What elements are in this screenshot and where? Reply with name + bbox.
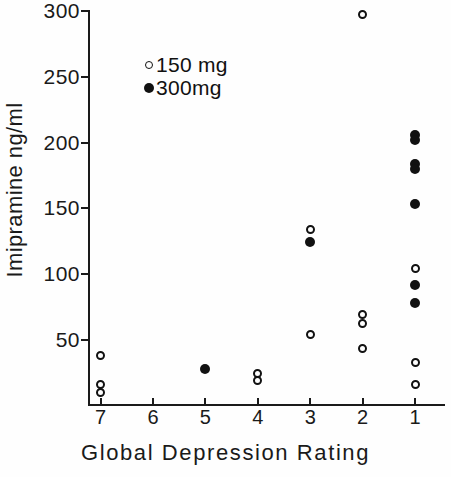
legend-entry: 150 mg bbox=[142, 53, 228, 76]
y-tick-label-150: 150 bbox=[43, 197, 80, 218]
data-point bbox=[200, 364, 210, 374]
data-point bbox=[253, 376, 262, 385]
data-point bbox=[411, 380, 420, 389]
x-axis-title: Global Depression Rating bbox=[0, 440, 451, 466]
x-tick-6 bbox=[152, 398, 154, 405]
open-circle-icon bbox=[142, 58, 156, 72]
data-point bbox=[410, 298, 420, 308]
data-point bbox=[96, 351, 105, 360]
y-tick-50 bbox=[81, 339, 89, 341]
x-tick-3 bbox=[309, 398, 311, 405]
data-point bbox=[305, 237, 315, 247]
data-point bbox=[410, 135, 420, 145]
x-tick-5 bbox=[204, 398, 206, 405]
y-tick-150 bbox=[81, 207, 89, 209]
legend-label: 300mg bbox=[156, 77, 222, 98]
legend: 150 mg300mg bbox=[142, 53, 228, 99]
x-axis-line bbox=[88, 404, 445, 406]
x-tick-4 bbox=[257, 398, 259, 405]
y-tick-300 bbox=[81, 10, 89, 12]
data-point bbox=[306, 225, 315, 234]
y-tick-200 bbox=[81, 142, 89, 144]
y-tick-label-100: 100 bbox=[43, 263, 80, 284]
data-point bbox=[411, 264, 420, 273]
data-point bbox=[411, 358, 420, 367]
data-point bbox=[358, 344, 367, 353]
data-point bbox=[358, 310, 367, 319]
y-axis-title: Imipramine ng/ml bbox=[2, 25, 30, 355]
filled-circle-icon bbox=[142, 81, 156, 95]
data-point bbox=[410, 199, 420, 209]
legend-entry: 300mg bbox=[142, 76, 228, 99]
x-tick-label-3: 3 bbox=[298, 407, 322, 427]
x-tick-1 bbox=[414, 398, 416, 405]
y-tick-100 bbox=[81, 273, 89, 275]
legend-label: 150 mg bbox=[156, 54, 228, 75]
data-point bbox=[358, 10, 367, 19]
y-tick-label-250: 250 bbox=[43, 66, 80, 87]
scatter-plot-figure: 30025020015010050 7654321 150 mg300mg Im… bbox=[0, 0, 451, 477]
data-point bbox=[96, 388, 105, 397]
data-point bbox=[410, 164, 420, 174]
x-tick-label-5: 5 bbox=[193, 407, 217, 427]
x-tick-label-1: 1 bbox=[403, 407, 427, 427]
x-tick-label-2: 2 bbox=[351, 407, 375, 427]
y-tick-250 bbox=[81, 76, 89, 78]
x-tick-label-4: 4 bbox=[246, 407, 270, 427]
x-tick-label-7: 7 bbox=[89, 407, 113, 427]
data-point bbox=[410, 280, 420, 290]
x-tick-label-6: 6 bbox=[141, 407, 165, 427]
y-tick-label-50: 50 bbox=[56, 329, 80, 350]
x-tick-2 bbox=[362, 398, 364, 405]
data-point bbox=[306, 330, 315, 339]
y-tick-label-300: 300 bbox=[43, 0, 80, 21]
y-tick-label-200: 200 bbox=[43, 132, 80, 153]
data-point bbox=[358, 319, 367, 328]
x-tick-7 bbox=[100, 398, 102, 405]
